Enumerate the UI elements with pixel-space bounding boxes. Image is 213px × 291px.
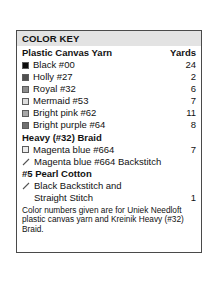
swatch-bright-pink [22,110,29,117]
row-label: Royal #32 [33,83,187,95]
table-row: Black #0024 [22,59,196,71]
row-yards: 11 [182,107,196,119]
table-row: Mermaid #537 [22,95,196,107]
swatch-mermaid [22,98,29,105]
column-header-row: Plastic Canvas Yarn Yards [22,46,196,59]
table-row: Bright purple #648 [22,119,196,131]
table-row: Magenta blue #6647 [22,144,196,156]
row-label: Mermaid #53 [33,95,187,107]
row-yards: 7 [187,95,196,107]
pearl-row-list: Black Backstitch andStraight Stitch1 [22,180,196,204]
page-title: COLOR KEY [22,33,196,44]
footnote-text: Color numbers given are for Uniek Needlo… [22,204,196,234]
color-key-header-band: COLOR KEY [17,31,201,46]
color-key-panel: COLOR KEY Plastic Canvas Yarn Yards Blac… [16,30,202,253]
section-heading-braid: Heavy (#32) Braid [22,131,196,144]
row-yards: 7 [187,144,196,156]
row-label: Bright pink #62 [33,107,182,119]
row-label: Magenta blue #664 Backstitch [34,156,192,168]
row-label: Bright purple #64 [33,119,187,131]
row-label: Magenta blue #664 [33,144,187,156]
backstitch-icon [22,158,30,166]
table-row: Holly #272 [22,71,196,83]
table-row: Straight Stitch1 [22,192,196,204]
column-header-yards: Yards [170,47,196,59]
row-label: Black #00 [33,59,181,71]
row-yards: 6 [187,83,196,95]
yarn-row-list: Black #0024Holly #272Royal #326Mermaid #… [22,59,196,131]
row-yards: 1 [187,192,196,204]
swatch-bright-purple [22,122,29,129]
row-yards: 24 [181,59,196,71]
row-label: Black Backstitch and [34,180,192,192]
swatch-holly [22,74,29,81]
table-row: Bright pink #6211 [22,107,196,119]
section-heading-pearl-cotton: #5 Pearl Cotton [22,168,196,181]
swatch-magenta-blue [22,146,29,153]
row-yards: 2 [187,71,196,83]
braid-row-list: Magenta blue #6647Magenta blue #664 Back… [22,144,196,168]
table-row: Black Backstitch and [22,180,196,192]
table-row: Magenta blue #664 Backstitch [22,156,196,168]
column-header-name: Plastic Canvas Yarn [22,47,112,59]
row-label: Straight Stitch [34,192,187,204]
row-label: Holly #27 [33,71,187,83]
row-yards: 8 [187,119,196,131]
backstitch-icon [22,182,30,190]
color-key-body: Plastic Canvas Yarn Yards Black #0024Hol… [17,46,201,234]
table-row: Royal #326 [22,83,196,95]
swatch-royal [22,86,29,93]
swatch-black [22,62,29,69]
